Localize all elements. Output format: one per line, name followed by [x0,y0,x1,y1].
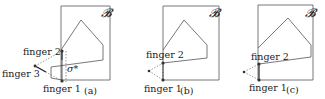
panel-caption: (b) [180,85,194,96]
finger-2-dot [257,62,260,65]
finger-2-label: finger 2 [251,51,289,62]
region-label: 𝓑 [101,6,114,20]
finger-3-dot [34,65,37,68]
finger-2-dot [161,61,164,64]
panel-b: 𝓑 finger 2 finger 1 (b) [144,6,222,96]
dashed-link [149,63,163,71]
panel-caption: (c) [286,84,299,95]
finger-2-label: finger 2 [23,46,61,57]
region-label: 𝓑 [305,6,318,20]
finger-3-label: finger 3 [2,68,40,79]
finger-1-label: finger 1 [43,83,81,94]
panel-caption: (a) [84,85,97,96]
finger-3-dot [243,71,246,74]
panel-c: 𝓑 finger 2 finger 1 (c) [243,5,318,95]
finger-2-dot [60,49,63,52]
dashed-link [149,71,163,80]
finger-1-label: finger 1 [144,83,182,94]
dashed-link [244,64,259,72]
panel-a: 𝓑 finger 2 finger 3 finger 1 σ* (a) [2,6,114,96]
figure-canvas: 𝓑 finger 2 finger 3 finger 1 σ* (a) 𝓑 fi… [0,0,325,99]
finger-1-dot [161,78,164,81]
object-polygon [258,18,311,80]
finger-2-label: finger 2 [146,49,184,60]
finger-3-dot [148,70,151,73]
sigma-star-label: σ* [67,63,78,74]
dashed-link [244,72,259,80]
region-label: 𝓑 [209,6,222,20]
finger-1-label: finger 1 [249,82,287,93]
